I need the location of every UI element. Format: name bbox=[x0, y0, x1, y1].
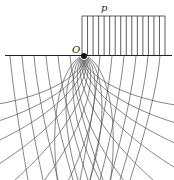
diagram-canvas: p O bbox=[0, 0, 174, 180]
load-block bbox=[82, 16, 165, 55]
origin-point bbox=[81, 53, 87, 59]
origin-label: O bbox=[72, 44, 80, 55]
load-label: p bbox=[101, 2, 108, 13]
trajectory-grid bbox=[0, 56, 174, 180]
